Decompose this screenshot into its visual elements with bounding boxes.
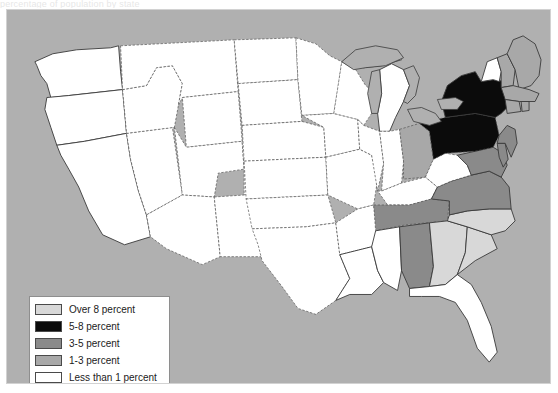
state-OK[interactable]: [246, 195, 336, 229]
legend-item-1-3[interactable]: 1-3 percent: [35, 352, 164, 369]
map-canvas[interactable]: Over 8 percent 5-8 percent 3-5 percent 1…: [6, 9, 551, 384]
state-MN[interactable]: [296, 38, 342, 116]
state-GA[interactable]: [429, 221, 467, 287]
state-FL[interactable]: [410, 275, 498, 363]
legend-label-5-8: 5-8 percent: [69, 321, 120, 332]
legend-swatch-under-1: [35, 372, 62, 383]
map-legend: Over 8 percent 5-8 percent 3-5 percent 1…: [29, 296, 170, 384]
state-AL[interactable]: [400, 223, 434, 289]
state-CT[interactable]: [505, 100, 521, 114]
state-MO[interactable]: [326, 149, 378, 209]
legend-item-3-5[interactable]: 3-5 percent: [35, 335, 164, 352]
state-WY[interactable]: [182, 92, 242, 148]
legend-label-1-3: 1-3 percent: [69, 355, 120, 366]
state-RI[interactable]: [521, 102, 529, 112]
state-TX[interactable]: [252, 223, 350, 315]
legend-swatch-3-5: [35, 338, 62, 349]
map-figure: percentage of population by state: [0, 0, 558, 393]
state-MA[interactable]: [501, 86, 539, 102]
caption-sliver: percentage of population by state: [0, 0, 558, 8]
state-SD[interactable]: [238, 80, 302, 126]
legend-label-3-5: 3-5 percent: [69, 338, 120, 349]
state-WA[interactable]: [35, 46, 123, 98]
legend-swatch-1-3: [35, 355, 62, 366]
legend-label-over-8: Over 8 percent: [69, 304, 135, 315]
state-NE[interactable]: [242, 121, 326, 161]
legend-swatch-over-8: [35, 304, 62, 315]
lake-erie: [408, 107, 442, 125]
legend-label-under-1: Less than 1 percent: [69, 372, 157, 383]
legend-item-over-8[interactable]: Over 8 percent: [35, 301, 164, 318]
legend-swatch-5-8: [35, 321, 62, 332]
legend-item-5-8[interactable]: 5-8 percent: [35, 318, 164, 335]
state-KS[interactable]: [244, 157, 328, 199]
legend-item-under-1[interactable]: Less than 1 percent: [35, 369, 164, 384]
state-ND[interactable]: [234, 38, 298, 84]
